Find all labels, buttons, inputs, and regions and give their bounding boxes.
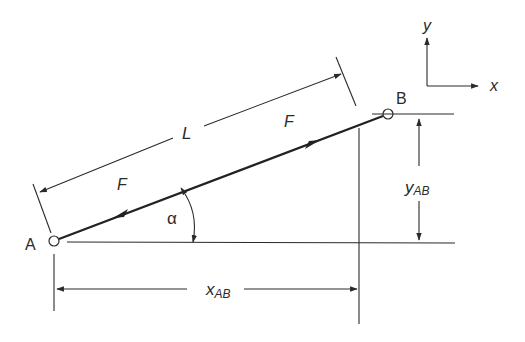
axis-y-label: y: [422, 17, 432, 34]
coordinate-axes-icon: [427, 38, 478, 86]
force-label-upper: F: [284, 113, 295, 130]
horizontal-baseline: [67, 242, 455, 243]
y-dimension-label: yAB: [404, 178, 430, 198]
length-label: L: [182, 124, 191, 143]
force-label-lower: F: [117, 176, 128, 193]
x-dimension-label: xAB: [205, 280, 231, 301]
point-b-label: B: [396, 90, 407, 107]
axis-x-label: x: [489, 77, 499, 94]
member-ab-bar: [59, 116, 383, 239]
joint-a-circle: [49, 236, 59, 246]
truss-member-diagram: y x A B L F F α yAB xAB: [0, 0, 525, 342]
angle-arc: [181, 188, 195, 242]
point-a-label: A: [25, 236, 36, 253]
angle-label: α: [167, 209, 177, 228]
